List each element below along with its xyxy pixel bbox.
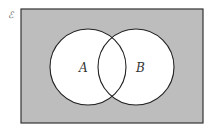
set-b-label: B: [135, 61, 145, 75]
set-a-label: A: [78, 61, 88, 75]
venn-diagram: ℰ A B: [0, 0, 210, 129]
universal-set-label: ℰ: [8, 10, 15, 20]
